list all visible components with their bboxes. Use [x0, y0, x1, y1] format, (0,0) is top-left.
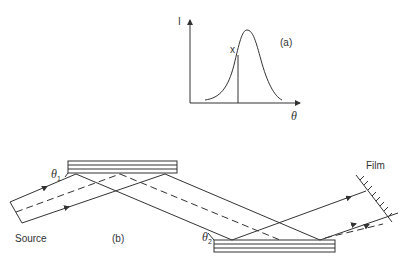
- marker-label: x: [230, 45, 235, 55]
- panel-b-label: (b): [112, 234, 124, 244]
- source-slit: [10, 202, 22, 223]
- panel-a-label: (a): [280, 38, 292, 48]
- x-axis-label: θ: [291, 110, 297, 122]
- film-plate: [356, 175, 392, 222]
- theta2-label: θ2: [202, 231, 212, 245]
- film-label: Film: [366, 161, 385, 171]
- y-axis-label: I: [178, 17, 181, 27]
- theta1-label: θ1: [51, 168, 61, 182]
- lower-crystal: [208, 233, 335, 252]
- intensity-curve: [205, 30, 282, 100]
- rocking-curve-plot: [190, 20, 300, 103]
- source-label: Source: [15, 234, 47, 244]
